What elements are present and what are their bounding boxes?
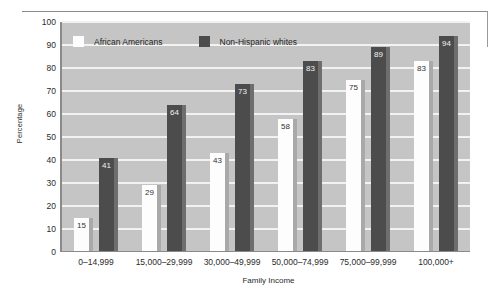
x-axis-title-text: Family Income — [242, 276, 294, 285]
gridline — [62, 205, 470, 207]
legend-swatch-icon — [73, 36, 86, 49]
x-axis-tick: 15,000–29,999 — [136, 258, 193, 267]
gridline — [62, 182, 470, 184]
bar-body — [371, 47, 386, 252]
y-axis-tick: 0 — [4, 248, 56, 257]
legend-swatch-body — [73, 36, 84, 47]
y-axis-tick-labels: 1009080706050403020100 — [0, 0, 56, 304]
bar-value-label: 73 — [235, 88, 250, 96]
bar-value-label: 58 — [278, 123, 293, 131]
bar: 41 — [99, 158, 118, 252]
y-axis-tick: 40 — [4, 156, 56, 165]
bar-shadow — [157, 185, 161, 252]
bar: 94 — [439, 36, 458, 252]
chart-legend: African AmericansNon-Hispanic whites — [73, 32, 333, 52]
bar-value-label: 41 — [99, 162, 114, 170]
bar: 83 — [303, 61, 322, 252]
bar-body — [303, 61, 318, 252]
y-axis-tick: 50 — [4, 133, 56, 142]
legend-item: African Americans — [73, 36, 163, 49]
bar-shadow — [225, 153, 229, 252]
bar: 58 — [278, 119, 297, 252]
bar-body — [235, 84, 250, 252]
gridline — [62, 136, 470, 138]
legend-swatch-icon — [199, 36, 212, 49]
y-axis-tick: 20 — [4, 202, 56, 211]
x-axis-title: Family Income — [0, 276, 497, 285]
plot-area: 154129644373588375898394 — [62, 22, 470, 252]
bar-value-label: 83 — [414, 65, 429, 73]
bar-value-label: 43 — [210, 157, 225, 165]
bar-value-label: 75 — [346, 84, 361, 92]
bar-chart-figure: 1009080706050403020100 Percentage 154129… — [0, 0, 497, 304]
bar-shadow — [293, 119, 297, 252]
y-axis-tick: 60 — [4, 110, 56, 119]
bar-shadow — [250, 84, 254, 252]
bar: 64 — [167, 105, 186, 252]
legend-label: Non-Hispanic whites — [220, 38, 297, 47]
gridline — [62, 228, 470, 230]
bar: 89 — [371, 47, 390, 252]
bar-value-label: 15 — [74, 222, 89, 230]
bar-body — [346, 80, 361, 253]
bar: 83 — [414, 61, 433, 252]
y-axis-tick: 100 — [4, 18, 56, 27]
gridline — [62, 67, 470, 69]
bar-shadow — [386, 47, 390, 252]
y-axis-tick: 70 — [4, 87, 56, 96]
x-axis-tick: 100,000+ — [418, 258, 454, 267]
bar-value-label: 83 — [303, 65, 318, 73]
legend-swatch-body — [199, 36, 210, 47]
x-axis-tick: 30,000–49,999 — [204, 258, 261, 267]
x-axis-line — [60, 251, 470, 252]
bar: 43 — [210, 153, 229, 252]
y-axis-tick: 10 — [4, 225, 56, 234]
bar-body — [278, 119, 293, 252]
bar-body — [439, 36, 454, 252]
y-axis-tick: 80 — [4, 64, 56, 73]
bar: 15 — [74, 218, 93, 253]
bar-shadow — [361, 80, 365, 253]
legend-item: Non-Hispanic whites — [199, 36, 297, 49]
bar-value-label: 64 — [167, 109, 182, 117]
y-axis-tick: 90 — [4, 41, 56, 50]
bar-shadow — [182, 105, 186, 252]
y-axis-title: Percentage — [15, 79, 24, 169]
gridline — [62, 21, 470, 23]
bar-shadow — [89, 218, 93, 253]
bar-value-label: 94 — [439, 40, 454, 48]
bar-body — [210, 153, 225, 252]
legend-label: African Americans — [94, 38, 163, 47]
bar-value-label: 89 — [371, 51, 386, 59]
y-axis-tick: 30 — [4, 179, 56, 188]
bar-body — [414, 61, 429, 252]
bar: 29 — [142, 185, 161, 252]
x-axis-tick: 0–14,999 — [78, 258, 113, 267]
x-axis-tick: 75,000–99,999 — [340, 258, 397, 267]
bar-shadow — [318, 61, 322, 252]
gridline — [62, 113, 470, 115]
bar: 73 — [235, 84, 254, 252]
x-axis-tick: 50,000–74,999 — [272, 258, 329, 267]
bar-shadow — [454, 36, 458, 252]
bar: 75 — [346, 80, 365, 253]
gridline — [62, 159, 470, 161]
bar-body — [167, 105, 182, 252]
bar-shadow — [114, 158, 118, 252]
gridline — [62, 90, 470, 92]
bar-value-label: 29 — [142, 189, 157, 197]
bar-body — [99, 158, 114, 252]
bar-shadow — [429, 61, 433, 252]
